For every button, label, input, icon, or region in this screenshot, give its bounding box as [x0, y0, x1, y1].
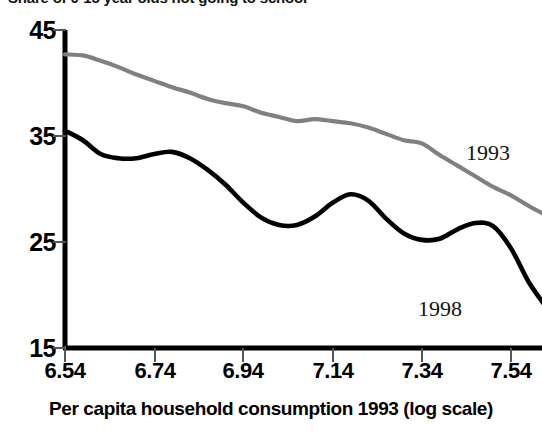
- series-annotation-1993: 1993: [466, 140, 510, 166]
- series-line-1993: [65, 54, 542, 215]
- series-annotation-1998: 1998: [418, 296, 462, 322]
- plot-area: [0, 0, 542, 445]
- axis-lines: [63, 30, 542, 349]
- chart-container: Share of 0-15 year olds not going to sch…: [0, 0, 542, 445]
- data-series-group: [65, 54, 542, 307]
